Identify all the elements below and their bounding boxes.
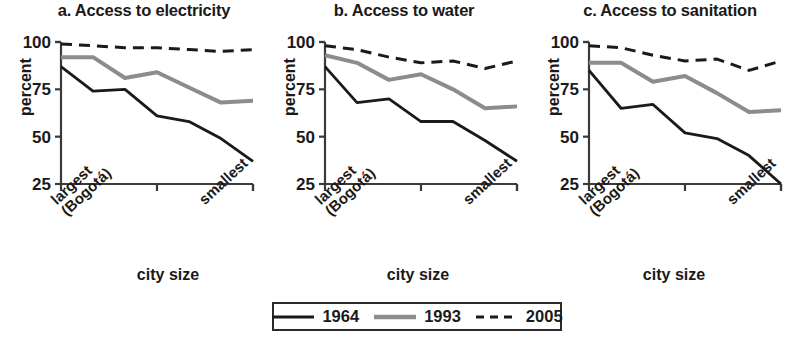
legend-label-1993: 1993	[424, 307, 461, 326]
panel-row: a. Access to electricity percent 2550751…	[0, 0, 794, 300]
legend-entry-2005: 2005	[468, 307, 570, 326]
legend-swatch-1964-icon	[271, 311, 315, 323]
svg-text:100: 100	[23, 33, 51, 52]
legend-label-1964: 1964	[322, 307, 359, 326]
legend-entry-1964: 1964	[264, 307, 366, 326]
svg-text:25: 25	[560, 175, 579, 194]
series-line-1964	[325, 67, 517, 162]
svg-text:75: 75	[32, 80, 51, 99]
svg-text:100: 100	[551, 33, 579, 52]
svg-text:75: 75	[560, 80, 579, 99]
panel-c-x-axis-label: city size	[528, 266, 794, 284]
legend-label-2005: 2005	[526, 307, 563, 326]
panel-a-x-axis-label: city size	[0, 266, 300, 284]
series-line-1964	[61, 67, 253, 162]
panel-c-access-to-sanitation: c. Access to sanitation percent 25507510…	[528, 0, 792, 300]
svg-text:75: 75	[296, 80, 315, 99]
series-line-2005	[589, 46, 781, 71]
svg-text:50: 50	[296, 128, 315, 147]
panel-a-access-to-electricity: a. Access to electricity percent 2550751…	[0, 0, 264, 300]
svg-text:50: 50	[560, 128, 579, 147]
panel-b-access-to-water: b. Access to water percent 255075100 lar…	[264, 0, 528, 300]
panel-b-x-axis-label: city size	[264, 266, 550, 284]
svg-text:25: 25	[32, 175, 51, 194]
chart-figure: a. Access to electricity percent 2550751…	[0, 0, 794, 337]
series-line-2005	[325, 46, 517, 69]
chart-legend: 196419932005	[272, 302, 562, 331]
legend-swatch-2005-icon	[475, 311, 519, 323]
legend-entry-1993: 1993	[366, 307, 468, 326]
legend-swatch-1993-icon	[373, 311, 417, 323]
svg-text:100: 100	[287, 33, 315, 52]
svg-text:25: 25	[296, 175, 315, 194]
series-line-1993	[61, 57, 253, 102]
series-line-2005	[61, 44, 253, 52]
svg-text:50: 50	[32, 128, 51, 147]
